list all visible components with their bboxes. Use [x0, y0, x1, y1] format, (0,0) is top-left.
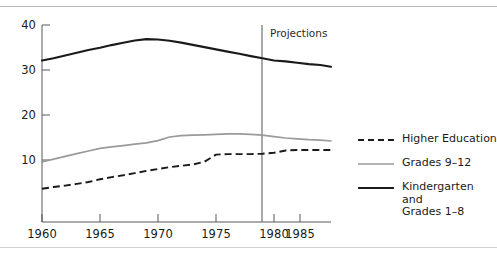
legend-item-grades-9-12: Grades 9–12	[358, 157, 497, 172]
projections-annotation-label: Projections	[270, 27, 327, 39]
x-tick-label-1985: 1985	[277, 227, 323, 241]
x-axis-ticks	[42, 214, 300, 222]
series-line-grades-9-12	[42, 134, 331, 162]
x-tick-label-1970: 1970	[135, 227, 181, 241]
series-line-kindergarten-grades-1-8	[42, 39, 331, 67]
legend-label-kindergarten-grades-1-8: Kindergarten and Grades 1–8	[402, 181, 497, 219]
legend-item-higher-education: Higher Education	[358, 133, 497, 148]
legend-item-kindergarten-grades-1-8: Kindergarten and Grades 1–8	[358, 181, 497, 219]
y-tick-label-10: 10	[12, 153, 36, 167]
x-tick-label-1960: 1960	[19, 227, 65, 241]
series-line-higher-education	[42, 150, 331, 189]
chart-legend: Higher Education Grades 9–12 Kindergarte…	[358, 133, 497, 228]
x-tick-label-1975: 1975	[193, 227, 239, 241]
legend-label-grades-9-12: Grades 9–12	[402, 157, 497, 170]
y-tick-label-30: 30	[12, 63, 36, 77]
y-tick-label-20: 20	[12, 108, 36, 122]
x-tick-label-1965: 1965	[77, 227, 123, 241]
legend-swatch-kindergarten-grades-1-8-icon	[358, 187, 394, 191]
legend-swatch-higher-education-dashed-icon	[358, 139, 394, 143]
chart-figure: 40 30 20 10 1960 1965 1970 1975 1980 198…	[0, 0, 497, 254]
y-axis-ticks	[42, 25, 50, 160]
legend-label-higher-education: Higher Education	[402, 133, 497, 146]
legend-swatch-grades-9-12-icon	[358, 163, 394, 167]
y-tick-label-40: 40	[12, 18, 36, 32]
